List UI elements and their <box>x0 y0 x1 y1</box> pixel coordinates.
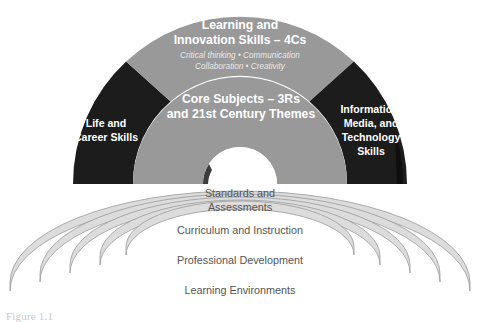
info-media-tech-line1: Information, <box>340 103 401 115</box>
learning-environments-line1: Learning Environments <box>184 284 296 296</box>
core-subjects-line2: and 21st Century Themes <box>167 107 316 121</box>
learning-innovation-sub2: Collaboration • Creativity <box>195 62 286 71</box>
info-media-tech-line4: Skills <box>357 145 385 157</box>
standards-assessments-line2: Assessments <box>208 201 273 213</box>
label-curriculum-instruction: Curriculum and Instruction <box>177 224 303 236</box>
life-career-line2: Career Skills <box>74 131 138 143</box>
learning-innovation-line2: Innovation Skills – 4Cs <box>174 33 307 47</box>
learning-innovation-line1: Learning and <box>202 18 279 32</box>
info-media-tech-line3: Technology <box>342 131 401 143</box>
info-media-tech-line2: Media, and <box>344 117 399 129</box>
label-learning-environments: Learning Environments <box>184 284 296 296</box>
professional-development-line1: Professional Development <box>177 254 303 266</box>
label-core-subjects: Core Subjects – 3Rs and 21st Century The… <box>167 92 316 121</box>
label-professional-development: Professional Development <box>177 254 303 266</box>
life-career-line1: Life and <box>86 117 127 129</box>
curriculum-instruction-line1: Curriculum and Instruction <box>177 224 303 236</box>
core-subjects-line1: Core Subjects – 3Rs <box>182 92 300 106</box>
figure-caption: Figure 1.1 <box>6 310 53 322</box>
standards-assessments-line1: Standards and <box>205 187 275 199</box>
learning-innovation-sub1: Critical thinking • Communication <box>180 51 300 60</box>
